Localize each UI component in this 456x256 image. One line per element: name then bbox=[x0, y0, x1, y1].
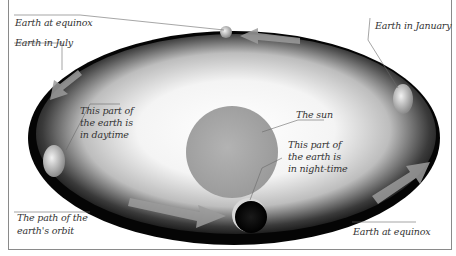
earth-july-icon bbox=[43, 145, 65, 177]
label-earth-equinox-top: Earth at equinox bbox=[15, 17, 92, 29]
label-earth-equinox-bottom: Earth at equinox bbox=[353, 226, 430, 238]
label-orbit-line1: The path of the bbox=[17, 212, 88, 224]
earth-january-icon bbox=[393, 84, 413, 114]
label-orbit-line2: earth's orbit bbox=[17, 225, 74, 237]
label-daytime-line2: the earth is bbox=[80, 117, 133, 129]
label-night-line2: the earth is bbox=[288, 151, 341, 163]
label-daytime-line1: This part of bbox=[80, 105, 133, 117]
earth-equinox-top-icon bbox=[220, 26, 232, 38]
label-sun: The sun bbox=[296, 109, 333, 121]
label-earth-july: Earth in July bbox=[15, 37, 73, 49]
label-night-line1: This part of bbox=[288, 139, 341, 151]
label-earth-january: Earth in January bbox=[375, 20, 451, 32]
label-night-line3: in night-time bbox=[288, 163, 347, 175]
sun-icon bbox=[186, 106, 278, 198]
label-daytime-line3: in daytime bbox=[80, 129, 129, 141]
